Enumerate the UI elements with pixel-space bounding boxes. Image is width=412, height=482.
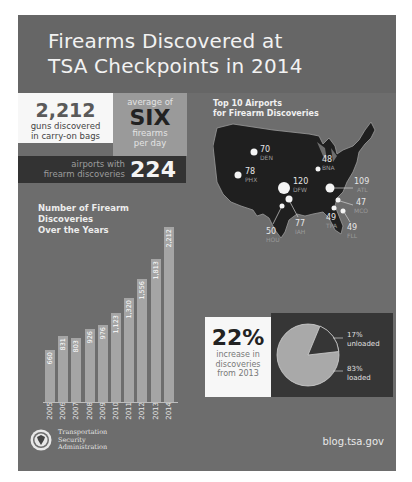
bar-year-label: 2005	[45, 402, 55, 432]
bar-value-label: 1,813	[151, 261, 161, 321]
increase-label-3: from 2013	[205, 369, 271, 379]
blog-link[interactable]: blog.tsa.gov	[322, 436, 384, 447]
loaded-legend: 83% loaded	[347, 365, 371, 382]
bar-year-label: 2013	[151, 402, 161, 432]
bar-year-label: 2014	[164, 402, 174, 432]
increase-label-1: increase in	[205, 350, 271, 360]
loaded-pie-panel: 17% unloaded 83% loaded	[271, 313, 393, 397]
bar-value-label: 2,212	[164, 229, 174, 289]
bar-value-label: 831	[58, 338, 68, 398]
agency-line-3: Administration	[58, 444, 107, 452]
unloaded-legend: 17% unloaded	[347, 331, 380, 348]
unloaded-label: unloaded	[347, 340, 380, 349]
bar-value-label: 976	[98, 327, 108, 387]
bar-value-label: 1,123	[111, 315, 121, 375]
unloaded-pct: 17%	[347, 331, 380, 340]
bar-value-label: 926	[85, 331, 95, 391]
increase-stat: 22% increase in discoveries from 2013	[205, 317, 271, 397]
increase-value: 22%	[205, 326, 271, 350]
bar-year-label: 2012	[137, 402, 147, 432]
dhs-seal-icon	[30, 429, 52, 451]
bar-year-label: 2011	[124, 402, 134, 432]
bar-chart-baseline	[43, 402, 178, 403]
loaded-label: loaded	[347, 374, 371, 383]
loaded-pie-chart	[271, 313, 393, 397]
infographic-panel: Firearms Discovered at TSA Checkpoints i…	[18, 15, 396, 471]
increase-label-2: discoveries	[205, 360, 271, 370]
bar-value-label: 803	[71, 340, 81, 400]
agency-name: Transportation Security Administration	[58, 429, 107, 452]
bar-value-label: 1,556	[137, 281, 147, 341]
loaded-pct: 83%	[347, 365, 371, 374]
bar-value-label: 1,320	[124, 300, 134, 360]
bar-year-label: 2010	[111, 402, 121, 432]
